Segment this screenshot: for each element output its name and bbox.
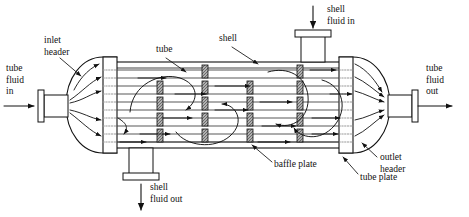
tube-plate-left — [103, 57, 117, 153]
label-inlet-header: inlet header — [44, 35, 69, 58]
shell-outlet-nozzle — [123, 148, 159, 180]
label-tube-fluid-in: tube fluid in — [6, 63, 24, 98]
label-tube-plate: tube plate — [360, 172, 397, 184]
label-shell-fluid-out: shell fluid out — [150, 182, 182, 205]
tube-outlet-nozzle — [388, 90, 418, 122]
tube-plate-right — [339, 57, 353, 153]
heat-exchanger-diagram: tube fluid in tube fluid out inlet heade… — [0, 0, 469, 217]
label-tube-fluid-out: tube fluid out — [426, 63, 444, 98]
label-shell: shell — [219, 33, 237, 45]
label-baffle-plate: baffle plate — [274, 159, 317, 171]
tube-inlet-nozzle — [38, 90, 68, 122]
label-tube: tube — [156, 44, 172, 56]
shell-inlet-nozzle — [295, 30, 331, 62]
label-shell-fluid-in: shell fluid in — [327, 4, 355, 27]
